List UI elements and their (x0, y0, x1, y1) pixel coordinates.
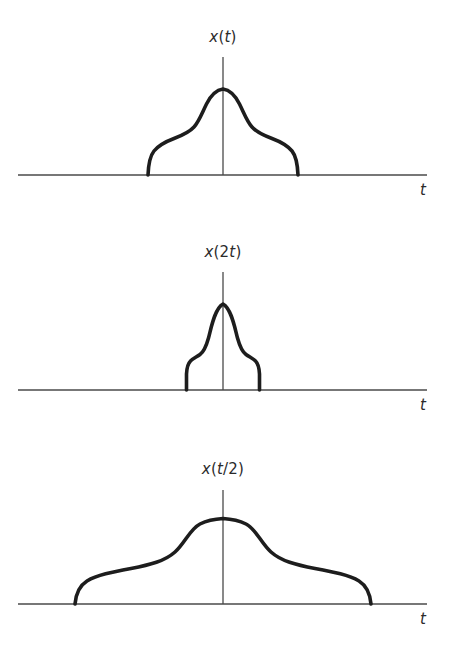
x-axis-label-t: t (420, 610, 426, 628)
y-axis-label-x2t: x(2t) (204, 243, 241, 261)
x-axis-label-t: t (420, 181, 426, 199)
y-axis-label-func: x (209, 28, 218, 46)
panel-compressed: x(2t) t (0, 215, 458, 433)
panel-expanded: x(t/2) t (0, 429, 458, 652)
time-scaling-figure: x(t) t x(2t) t x(t/2) t (0, 0, 458, 652)
y-axis-label-open: (2 (214, 243, 230, 261)
y-axis-label-close: ) (231, 28, 237, 46)
y-axis-label-xt: x(t) (209, 28, 236, 46)
panel-original: x(t) t (0, 0, 458, 218)
y-axis-label-xt2: x(t/2) (202, 460, 244, 478)
y-axis-label-close: ) (235, 243, 241, 261)
x-axis-label-t: t (420, 396, 426, 414)
y-axis-label-close: /2) (223, 460, 244, 478)
y-axis-label-func: x (202, 460, 211, 478)
y-axis-label-func: x (204, 243, 213, 261)
